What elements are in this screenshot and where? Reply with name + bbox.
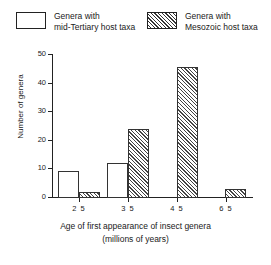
legend-swatch-open-rectangle-icon — [16, 12, 46, 29]
y-tick-label-50: 50 — [26, 50, 46, 58]
y-tick-50 — [48, 54, 53, 55]
legend-line-2: mid-Tertiary host taxa — [54, 22, 135, 32]
legend-line-2: Mesozoic host taxa — [185, 22, 258, 32]
legend-item-mid-tertiary-label: Genera with mid-Tertiary host taxa — [54, 11, 135, 32]
x-axis-title-line-2: (millions of years) — [0, 233, 271, 246]
bar-35-mid-tertiary — [107, 163, 128, 198]
x-tick-label-45: 4 5 — [162, 204, 192, 213]
y-tick-label-50-wrap: 50 — [22, 50, 46, 58]
x-tick-label-25: 2 5 — [64, 204, 94, 213]
bar-25-mesozoic — [79, 192, 100, 198]
y-tick-0 — [48, 197, 53, 198]
x-axis-title-line-1: Age of first appearance of insect genera — [60, 221, 211, 231]
legend-swatch-hatched-rectangle-icon — [147, 12, 177, 29]
y-tick-label-0: 0 — [26, 193, 46, 201]
legend-line-1: Genera with — [54, 11, 100, 21]
plot-area: Number of genera 0 10 20 30 40 50 — [0, 44, 271, 265]
y-tick-label-10-wrap: 10 — [22, 164, 46, 172]
y-tick-20 — [48, 140, 53, 141]
y-tick-label-40-wrap: 40 — [22, 79, 46, 87]
y-tick-30 — [48, 111, 53, 112]
x-tick-label-35: 3 5 — [113, 204, 143, 213]
y-tick-40 — [48, 83, 53, 84]
y-tick-label-20-wrap: 20 — [22, 136, 46, 144]
legend-item-mid-tertiary: Genera with mid-Tertiary host taxa — [16, 11, 135, 32]
legend-item-mesozoic: Genera with Mesozoic host taxa — [147, 11, 258, 32]
legend-item-mesozoic-label: Genera with Mesozoic host taxa — [185, 11, 258, 32]
y-tick-label-20: 20 — [26, 136, 46, 144]
x-tick-65 — [226, 198, 227, 202]
legend-line-1: Genera with — [185, 11, 231, 21]
y-tick-label-10: 10 — [26, 164, 46, 172]
bar-25-mid-tertiary — [58, 171, 79, 198]
bar-65-mesozoic — [225, 189, 246, 198]
y-tick-10 — [48, 168, 53, 169]
x-tick-45 — [177, 198, 178, 202]
x-axis-title: Age of first appearance of insect genera… — [0, 220, 271, 246]
y-axis-line — [52, 54, 53, 198]
x-tick-35 — [128, 198, 129, 202]
x-tick-label-65: 6 5 — [211, 204, 241, 213]
y-tick-label-0-wrap: 0 — [22, 193, 46, 201]
bar-45-mesozoic — [177, 67, 198, 198]
y-tick-label-30: 30 — [26, 107, 46, 115]
y-tick-label-40: 40 — [26, 79, 46, 87]
x-tick-25 — [79, 198, 80, 202]
chart-legend: Genera with mid-Tertiary host taxa Gener… — [0, 6, 271, 44]
y-tick-label-30-wrap: 30 — [22, 107, 46, 115]
bar-35-mesozoic — [128, 129, 149, 198]
bar-chart-figure: Genera with mid-Tertiary host taxa Gener… — [0, 0, 271, 265]
